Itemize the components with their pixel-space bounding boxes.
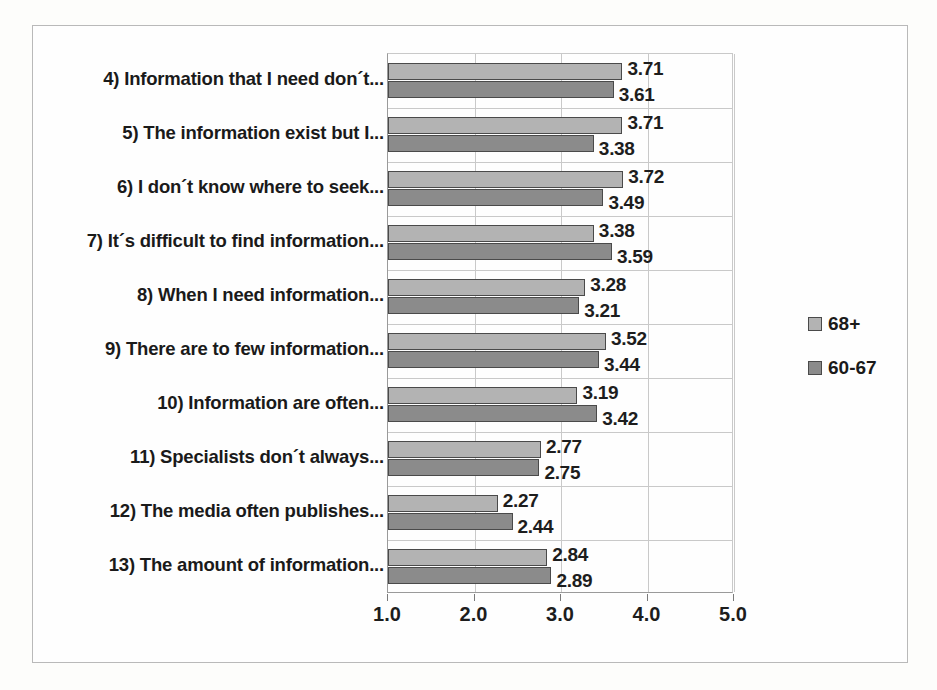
bar-value-label: 2.77 [546,436,582,458]
legend-item: 60-67 [808,357,903,379]
bar-value-label: 3.21 [584,300,620,322]
bar-value-label: 3.44 [604,354,640,376]
x-tick-label: 5.0 [719,603,747,626]
category-label: 13) The amount of information... [54,554,384,576]
bar-68- [388,495,498,512]
bar-value-label: 2.84 [552,544,588,566]
bar-68- [388,117,622,134]
bar-value-label: 3.59 [617,246,653,268]
bar-group: 3.283.21 [388,270,732,324]
bar-value-label: 3.19 [582,382,618,404]
bar-value-label: 3.61 [619,84,655,106]
category-label: 10) Information are often... [54,392,384,414]
bar-value-label: 2.89 [556,570,592,592]
bar-68- [388,333,606,350]
x-axis: 1.02.03.04.05.0 [387,594,733,634]
bar-68- [388,441,541,458]
bar-value-label: 3.72 [628,166,664,188]
x-tick-label: 1.0 [373,603,401,626]
legend-label: 60-67 [828,357,877,379]
bar-value-label: 3.38 [599,220,635,242]
bar-value-label: 2.27 [503,490,539,512]
category-axis-labels: 4) Information that I need don´t...5) Th… [50,53,384,593]
category-label: 8) When I need information... [54,284,384,306]
x-tick [387,594,388,601]
bar-68- [388,549,547,566]
chart-legend: 68+60-67 [808,313,903,401]
category-label: 6) I don´t know where to seek... [54,176,384,198]
bar-group: 3.193.42 [388,378,732,432]
bar-group: 2.842.89 [388,540,732,594]
category-label: 4) Information that I need don´t... [54,68,384,90]
category-label: 5) The information exist but I... [54,122,384,144]
plot-area: 3.713.613.713.383.723.493.383.593.283.21… [387,53,733,593]
bar-value-label: 3.52 [611,328,647,350]
x-tick [474,594,475,601]
bar-group: 2.272.44 [388,486,732,540]
category-label: 9) There are to few information... [54,338,384,360]
bar-value-label: 3.38 [599,138,635,160]
category-label: 11) Specialists don´t always... [54,446,384,468]
bar-60-67 [388,135,594,152]
x-gridline [734,54,735,592]
bar-68- [388,387,577,404]
bar-value-label: 3.71 [627,58,663,80]
bar-group: 3.713.61 [388,54,732,108]
legend-swatch-icon [808,317,822,331]
bar-value-label: 2.44 [518,516,554,538]
bar-value-label: 3.71 [627,112,663,134]
bar-group: 3.713.38 [388,108,732,162]
bar-value-label: 3.49 [608,192,644,214]
x-tick-label: 3.0 [546,603,574,626]
legend-swatch-icon [808,361,822,375]
bar-chart: 4) Information that I need don´t...5) Th… [0,0,937,690]
bar-60-67 [388,81,614,98]
bar-60-67 [388,243,612,260]
bar-68- [388,279,585,296]
bar-60-67 [388,297,579,314]
legend-item: 68+ [808,313,903,335]
bar-value-label: 3.42 [602,408,638,430]
bar-60-67 [388,513,513,530]
x-tick [560,594,561,601]
bar-group: 2.772.75 [388,432,732,486]
x-tick-label: 4.0 [633,603,661,626]
x-tick [733,594,734,601]
category-label: 12) The media often publishes... [54,500,384,522]
x-tick-label: 2.0 [460,603,488,626]
bar-60-67 [388,459,539,476]
bar-60-67 [388,567,551,584]
bar-68- [388,225,594,242]
bar-60-67 [388,189,603,206]
bar-68- [388,171,623,188]
bar-60-67 [388,405,597,422]
bar-60-67 [388,351,599,368]
bar-value-label: 3.28 [590,274,626,296]
bar-group: 3.723.49 [388,162,732,216]
category-label: 7) It´s difficult to find information... [54,230,384,252]
x-tick [647,594,648,601]
bar-group: 3.383.59 [388,216,732,270]
bar-group: 3.523.44 [388,324,732,378]
bar-68- [388,63,622,80]
legend-label: 68+ [828,313,860,335]
bar-value-label: 2.75 [544,462,580,484]
